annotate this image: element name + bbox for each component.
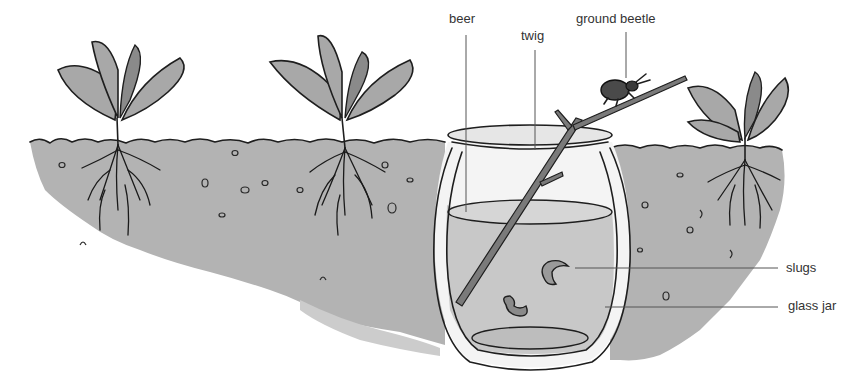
label-slugs: slugs <box>786 260 816 275</box>
glass-jar <box>434 125 630 370</box>
ground-beetle <box>601 74 650 106</box>
illustration <box>0 0 865 381</box>
label-ground-beetle: ground beetle <box>576 11 656 26</box>
label-glass-jar: glass jar <box>788 298 836 313</box>
label-beer: beer <box>449 11 475 26</box>
label-twig: twig <box>521 28 544 43</box>
slug-trap-diagram: beer twig ground beetle slugs glass jar <box>0 0 865 381</box>
soil <box>30 139 785 361</box>
